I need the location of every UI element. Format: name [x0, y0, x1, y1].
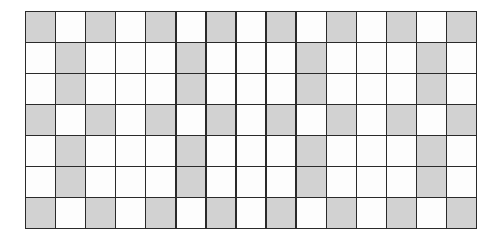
unshaded-cell	[177, 198, 206, 228]
shaded-cell	[327, 12, 356, 42]
unshaded-cell	[237, 43, 266, 73]
shaded-cell	[26, 105, 55, 135]
unshaded-cell	[86, 43, 115, 73]
shaded-cell	[327, 198, 356, 228]
unshaded-cell	[116, 136, 145, 166]
unshaded-cell	[267, 43, 296, 73]
unshaded-cell	[327, 74, 356, 104]
unshaded-cell	[237, 167, 266, 197]
unshaded-cell	[357, 198, 386, 228]
unshaded-cell	[177, 105, 206, 135]
shaded-cell	[267, 12, 296, 42]
shaded-cell	[86, 198, 115, 228]
unshaded-cell	[146, 136, 175, 166]
shaded-cell	[387, 105, 416, 135]
shaded-cell	[207, 12, 236, 42]
unshaded-cell	[267, 74, 296, 104]
shaded-cell	[177, 43, 206, 73]
shaded-cell	[297, 167, 326, 197]
unshaded-cell	[116, 167, 145, 197]
unshaded-cell	[86, 167, 115, 197]
shaded-cell	[56, 136, 85, 166]
unshaded-cell	[447, 167, 476, 197]
shaded-square-grid	[25, 11, 477, 229]
unshaded-cell	[447, 74, 476, 104]
shaded-cell	[146, 12, 175, 42]
shaded-cell	[56, 74, 85, 104]
unshaded-cell	[146, 74, 175, 104]
shaded-cell	[267, 198, 296, 228]
unshaded-cell	[357, 136, 386, 166]
unshaded-cell	[357, 74, 386, 104]
unshaded-cell	[26, 167, 55, 197]
shaded-cell	[297, 43, 326, 73]
shaded-cell	[417, 167, 446, 197]
unshaded-cell	[327, 43, 356, 73]
unshaded-cell	[237, 12, 266, 42]
shaded-cell	[177, 136, 206, 166]
unshaded-cell	[207, 74, 236, 104]
shaded-cell	[267, 105, 296, 135]
unshaded-cell	[56, 12, 85, 42]
unshaded-cell	[207, 136, 236, 166]
unshaded-cell	[177, 12, 206, 42]
shaded-cell	[146, 198, 175, 228]
unshaded-cell	[297, 198, 326, 228]
unshaded-cell	[387, 43, 416, 73]
unshaded-cell	[357, 105, 386, 135]
unshaded-cell	[237, 198, 266, 228]
shaded-cell	[177, 167, 206, 197]
shaded-cell	[26, 12, 55, 42]
unshaded-cell	[327, 167, 356, 197]
unshaded-cell	[357, 167, 386, 197]
unshaded-cell	[447, 136, 476, 166]
unshaded-cell	[116, 198, 145, 228]
unshaded-cell	[207, 43, 236, 73]
shaded-cell	[387, 198, 416, 228]
shaded-cell	[417, 74, 446, 104]
unshaded-cell	[267, 167, 296, 197]
unshaded-cell	[26, 43, 55, 73]
shaded-cell	[56, 167, 85, 197]
unshaded-cell	[56, 105, 85, 135]
unshaded-cell	[357, 43, 386, 73]
shaded-cell	[447, 105, 476, 135]
shaded-cell	[177, 74, 206, 104]
unshaded-cell	[417, 105, 446, 135]
shaded-cell	[26, 198, 55, 228]
unshaded-cell	[86, 74, 115, 104]
shaded-cell	[56, 43, 85, 73]
unshaded-cell	[207, 167, 236, 197]
unshaded-cell	[267, 136, 296, 166]
shaded-cell	[207, 198, 236, 228]
unshaded-cell	[26, 136, 55, 166]
shaded-cell	[387, 12, 416, 42]
unshaded-cell	[237, 136, 266, 166]
unshaded-cell	[417, 198, 446, 228]
unshaded-cell	[237, 105, 266, 135]
unshaded-cell	[116, 74, 145, 104]
shaded-cell	[417, 136, 446, 166]
unshaded-cell	[417, 12, 446, 42]
unshaded-cell	[116, 12, 145, 42]
unshaded-cell	[357, 12, 386, 42]
unshaded-cell	[387, 136, 416, 166]
shaded-cell	[447, 198, 476, 228]
shaded-cell	[86, 12, 115, 42]
shaded-cell	[86, 105, 115, 135]
shaded-cell	[447, 12, 476, 42]
unshaded-cell	[26, 74, 55, 104]
unshaded-cell	[447, 43, 476, 73]
unshaded-cell	[146, 43, 175, 73]
unshaded-cell	[297, 105, 326, 135]
unshaded-cell	[237, 74, 266, 104]
shaded-cell	[297, 136, 326, 166]
shaded-cell	[207, 105, 236, 135]
unshaded-cell	[146, 167, 175, 197]
shaded-cell	[146, 105, 175, 135]
unshaded-cell	[116, 43, 145, 73]
unshaded-cell	[116, 105, 145, 135]
unshaded-cell	[387, 167, 416, 197]
unshaded-cell	[56, 198, 85, 228]
unshaded-cell	[327, 136, 356, 166]
